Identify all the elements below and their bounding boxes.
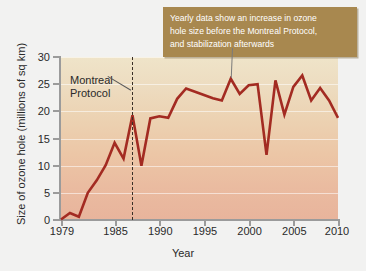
montreal-protocol-label: Montreal Protocol <box>70 74 113 100</box>
montreal-protocol-event-line <box>132 57 133 220</box>
callout-line-2: hole size before the Montreal Protocol, <box>170 25 350 38</box>
callout-line-3: and stabilization afterwards <box>170 38 350 51</box>
callout-box: Yearly data show an increase in ozone ho… <box>163 7 357 57</box>
callout-line-1: Yearly data show an increase in ozone <box>170 12 350 25</box>
ozone-hole-chart-figure: 30 25 20 15 10 5 0 1979 1985 1990 1995 2… <box>0 0 366 271</box>
